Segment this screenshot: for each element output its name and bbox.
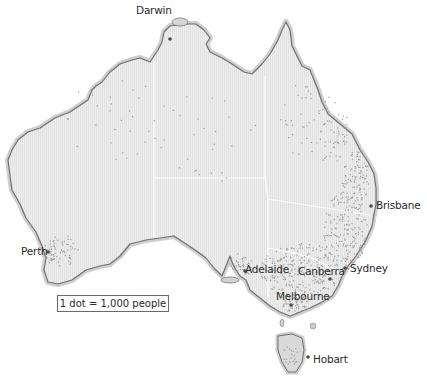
legend-text: 1 dot = 1,000 people [60,298,166,309]
city-label-perth: Perth [21,246,48,257]
tiwi-islands [172,18,188,26]
city-marker [369,204,373,208]
city-marker [328,277,332,281]
city-marker [306,355,310,359]
city-label-canberra: Canberra [298,266,345,277]
city-marker [168,37,172,41]
kangaroo-island [221,277,239,283]
australia-map [0,0,427,382]
legend-box: 1 dot = 1,000 people [57,295,169,312]
city-label-darwin: Darwin [136,5,172,16]
city-marker [289,303,293,307]
city-label-melbourne: Melbourne [276,291,330,302]
tasmania [278,319,316,372]
city-label-sydney: Sydney [350,263,388,274]
city-label-hobart: Hobart [313,354,348,365]
city-label-adelaide: Adelaide [245,264,289,275]
city-label-brisbane: Brisbane [376,200,421,211]
